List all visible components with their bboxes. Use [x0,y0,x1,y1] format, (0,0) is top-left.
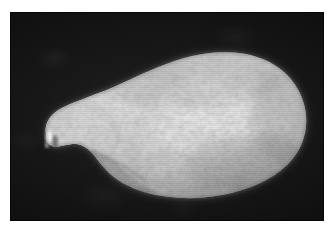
page-root [0,0,336,233]
photo-caption [10,222,326,233]
specimen-body [10,12,324,221]
ovoid-specimen [10,12,324,221]
specimen-drawing [10,12,324,221]
specimen-photograph [10,12,324,221]
